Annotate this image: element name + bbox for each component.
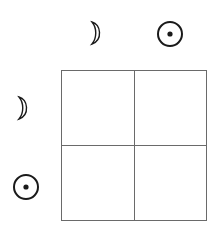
column-header-sun xyxy=(155,19,185,49)
cell-sun-moon xyxy=(62,146,134,220)
circled-dot-sun-icon xyxy=(155,19,185,49)
row-header-moon xyxy=(16,95,32,121)
cell-sun-sun xyxy=(135,146,206,220)
crescent-moon-icon xyxy=(89,20,105,46)
crescent-moon-icon xyxy=(16,95,32,121)
circled-dot-sun-icon xyxy=(11,172,41,202)
column-header-moon xyxy=(89,20,105,46)
cell-moon-sun xyxy=(135,71,206,145)
cell-moon-moon xyxy=(62,71,134,145)
row-header-sun xyxy=(11,172,41,202)
